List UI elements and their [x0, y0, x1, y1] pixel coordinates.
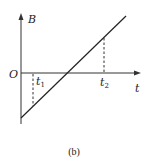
y-axis-label: B	[27, 13, 36, 26]
x-axis-label: t	[135, 82, 140, 95]
x-axis-arrow-icon	[134, 71, 141, 76]
y-axis-arrow-icon	[19, 13, 24, 20]
b-t-line	[21, 16, 126, 118]
origin-label: O	[9, 68, 18, 81]
b-t-graph: B O t t1 t2 (b)	[0, 0, 148, 168]
t1-label: t1	[36, 75, 45, 89]
t2-label: t2	[100, 76, 109, 90]
figure-caption: (b)	[68, 146, 80, 158]
